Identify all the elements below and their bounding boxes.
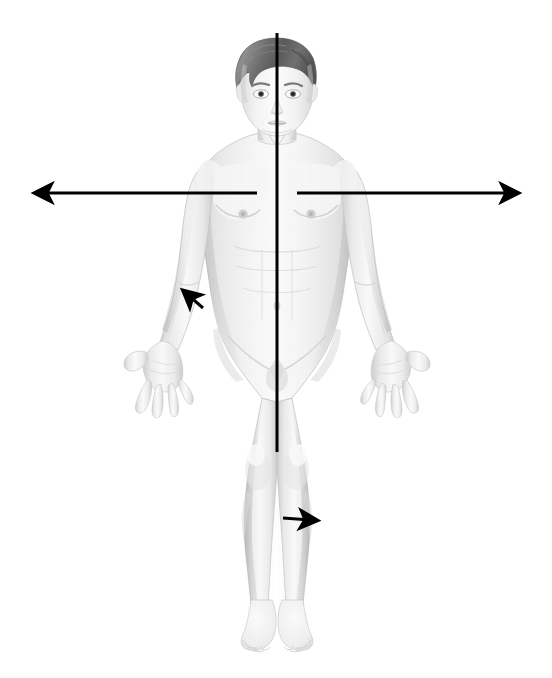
anatomy-figure-container <box>0 0 552 678</box>
anatomy-diagram-svg <box>0 0 552 678</box>
